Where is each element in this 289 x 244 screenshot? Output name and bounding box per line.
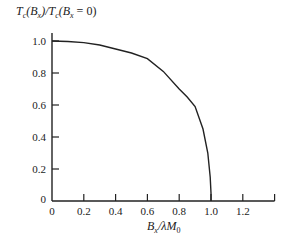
y-label-part: (B xyxy=(26,4,37,18)
x-tick-label: 0 xyxy=(49,205,55,217)
x-tick-label: 1.2 xyxy=(236,205,250,217)
data-curve xyxy=(52,41,211,201)
y-label-part: (B xyxy=(59,4,70,18)
ticks: 00.20.40.60.81.01.200.20.40.60.81.0 xyxy=(32,35,274,217)
x-label-sub: 0 xyxy=(176,226,180,235)
x-label-part: /λM xyxy=(158,219,177,233)
x-axis-label: Bx/λM0 xyxy=(147,219,180,235)
y-tick-label: 0.2 xyxy=(32,163,46,175)
x-tick-label: 1.0 xyxy=(204,205,218,217)
y-tick-label: 0.8 xyxy=(32,67,46,79)
y-tick-label: 1.0 xyxy=(32,35,46,47)
axes xyxy=(52,33,275,201)
y-tick-label: 0.6 xyxy=(32,99,46,111)
chart-canvas: 00.20.40.60.81.01.200.20.40.60.81.0 xyxy=(0,0,289,244)
x-tick-label: 0.2 xyxy=(77,205,91,217)
y-label-part: = 0) xyxy=(74,4,97,18)
y-label-part: T xyxy=(16,4,23,18)
x-tick-label: 0.4 xyxy=(109,205,123,217)
y-axis-label: Tc(Bx)/Tc(Bx = 0) xyxy=(16,4,96,20)
x-tick-label: 0.8 xyxy=(172,205,186,217)
y-tick-label: 0.4 xyxy=(32,131,46,143)
x-tick-label: 0.6 xyxy=(141,205,155,217)
y-label-part: )/T xyxy=(41,4,55,18)
y-tick-label: 0 xyxy=(41,193,47,205)
